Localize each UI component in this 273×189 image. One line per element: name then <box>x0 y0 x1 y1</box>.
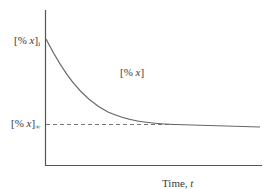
x-axis-label: Time, t <box>162 177 193 189</box>
asymptote-label: [% x]∞ <box>11 117 40 129</box>
curve-label: [% x] <box>120 66 144 78</box>
initial-value-label: [% x]i <box>14 34 40 46</box>
decay-curve <box>46 39 260 127</box>
decay-chart <box>0 0 273 189</box>
